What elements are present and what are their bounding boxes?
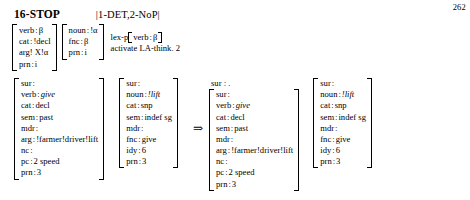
- derivation-output-group: sur : . sur:verb:givecat:declsem:pastmdr…: [209, 78, 386, 191]
- matrix-row: cat:!decl: [19, 36, 51, 47]
- matrix-value: i: [84, 47, 86, 57]
- matrix-colon: :: [338, 89, 340, 99]
- matrix-row: verb:give: [216, 100, 293, 111]
- output-surface-label: sur : .: [209, 78, 313, 89]
- matrix-attribute: mdr: [21, 123, 35, 133]
- matrix-row: sem:past: [21, 112, 98, 123]
- matrix-colon: :: [137, 100, 139, 110]
- matrix-colon: :: [33, 167, 35, 177]
- matrix-colon: :: [228, 179, 230, 189]
- matrix-value: !farmer!driver!lift: [36, 134, 98, 144]
- matrix-attribute: fnc: [69, 36, 80, 46]
- matrix-row: mdr:: [320, 123, 366, 134]
- matrix-row: noun:!lift: [320, 89, 366, 100]
- matrix-value: 6: [142, 145, 146, 155]
- matrix-colon: :: [141, 123, 143, 133]
- matrix-attribute: nc: [21, 145, 29, 155]
- matrix-value: 3: [142, 156, 146, 166]
- rule-header: 16-STOP |1-DET,2-NoP|: [14, 8, 160, 20]
- lex-p-operation: lex-pverb:β: [111, 32, 180, 43]
- matrix-row: pc:2 speed: [216, 167, 293, 178]
- matrix-colon: :: [31, 59, 33, 69]
- noun-pattern-matrix: noun:!αfnc:βprn:i: [62, 24, 104, 60]
- matrix-row: arg:!farmer!driver!lift: [216, 145, 293, 156]
- matrix-value: 6: [336, 145, 340, 155]
- matrix-colon: :: [231, 123, 233, 133]
- matrix-row: cat:snp: [320, 100, 366, 111]
- matrix-attribute: arg!: [19, 47, 33, 57]
- matrix-row: sem:indef sg: [320, 112, 366, 123]
- matrix-value: 3: [232, 179, 236, 189]
- matrix-attribute: fnc: [320, 134, 331, 144]
- matrix-attribute: noun: [320, 89, 337, 99]
- matrix-attribute: cat: [320, 100, 330, 110]
- matrix-attribute: mdr: [216, 134, 230, 144]
- matrix-attribute: prn: [21, 167, 32, 177]
- matrix-colon: :: [139, 156, 141, 166]
- derivation-arrow-icon: ⇒: [193, 78, 203, 134]
- matrix-row: noun:!lift: [126, 89, 172, 100]
- matrix-value: β: [84, 36, 88, 46]
- matrix-colon: :: [332, 134, 334, 144]
- matrix-value: !lift: [342, 89, 354, 99]
- matrix-row: cat:decl: [21, 100, 98, 111]
- matrix-colon: :: [225, 156, 227, 166]
- matrix-attribute: mdr: [126, 123, 140, 133]
- matrix-colon: :: [138, 134, 140, 144]
- matrix-colon: :: [232, 100, 234, 110]
- matrix-colon: :: [30, 156, 32, 166]
- matrix-value: give: [142, 134, 157, 144]
- matrix-colon: :: [81, 36, 83, 46]
- matrix-row: sur:: [21, 78, 98, 89]
- matrix-row: fnc:give: [320, 134, 366, 145]
- matrix-attribute: noun: [126, 89, 143, 99]
- matrix-value: 3: [336, 156, 340, 166]
- matrix-row: mdr:: [216, 134, 293, 145]
- lex-p-attr: verb: [133, 32, 148, 42]
- matrix-value: give: [236, 100, 250, 110]
- matrix-row: prn:3: [21, 167, 98, 178]
- matrix-attribute: arg: [216, 145, 227, 155]
- matrix-row: verb:β: [19, 25, 51, 36]
- matrix-attribute: sem: [21, 112, 35, 122]
- lex-p-bracket: verb:β: [128, 32, 162, 43]
- matrix-row: sem:indef sg: [126, 112, 172, 123]
- matrix-value: !α: [90, 25, 97, 35]
- rule-pattern: |1-DET,2-NoP|: [96, 9, 160, 20]
- lift-output-matrix: sur:noun:!liftcat:snpsem:indef sgmdr:fnc…: [313, 78, 372, 168]
- matrix-value: !decl: [33, 36, 50, 46]
- matrix-row: sem:past: [216, 123, 293, 134]
- matrix-row: fnc:β: [69, 36, 98, 47]
- matrix-colon: :: [332, 145, 334, 155]
- matrix-colon: :: [228, 89, 230, 99]
- matrix-colon: :: [30, 145, 32, 155]
- matrix-row: sur:: [216, 89, 293, 100]
- output-result-block: sur : . sur:verb:givecat:declsem:pastmdr…: [209, 78, 313, 191]
- matrix-row: pc:2 speed: [21, 156, 98, 167]
- matrix-row: nc:: [21, 145, 98, 156]
- matrix-row: idy:6: [320, 145, 366, 156]
- derivation-row: sur:verb:givecat:declsem:pastmdr:arg:!fa…: [14, 78, 386, 191]
- matrix-row: prn:3: [320, 156, 366, 167]
- matrix-attribute: cat: [216, 112, 226, 122]
- lift-input-matrix: sur:noun:!liftcat:snpsem:indef sgmdr:fnc…: [119, 78, 178, 168]
- matrix-attribute: sem: [320, 112, 334, 122]
- matrix-attribute: prn: [216, 179, 227, 189]
- matrix-attribute: sur: [21, 78, 32, 88]
- matrix-value: !lift: [148, 89, 160, 99]
- matrix-colon: :: [138, 145, 140, 155]
- verb-pattern-matrix: verb:βcat:!declarg!X!αprn:i: [12, 24, 57, 71]
- matrix-value: i: [35, 59, 37, 69]
- matrix-colon: :: [225, 167, 227, 177]
- matrix-value: !farmer!driver!lift: [231, 145, 293, 155]
- matrix-colon: :: [138, 78, 140, 88]
- matrix-row: cat:snp: [126, 100, 172, 111]
- matrix-colon: :: [332, 78, 334, 88]
- matrix-row: arg:!farmer!driver!lift: [21, 134, 98, 145]
- matrix-value: 3: [37, 167, 41, 177]
- matrix-colon: :: [33, 78, 35, 88]
- matrix-attribute: sur: [126, 78, 137, 88]
- matrix-attribute: sem: [216, 123, 230, 133]
- matrix-attribute: prn: [320, 156, 331, 166]
- matrix-attribute: nc: [216, 156, 224, 166]
